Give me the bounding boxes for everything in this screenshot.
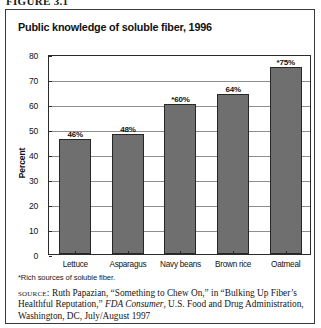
x-tick-mark <box>180 251 181 255</box>
plot-area: 0102030405060708046%Lettuce48%Asparagus*… <box>48 55 311 255</box>
source-label: source: <box>18 287 50 298</box>
y-tick-label: 80 <box>0 51 38 61</box>
y-tick-label: 20 <box>0 201 38 211</box>
x-axis-label: Oatmeal <box>271 260 300 269</box>
x-axis-label: Brown rice <box>215 260 251 269</box>
figure-label: FIGURE 3.1 <box>6 0 68 7</box>
source-note: source: Ruth Papazian, “Something to Che… <box>18 287 306 322</box>
source-publication: FDA Consumer <box>105 299 163 309</box>
bar-value-label: 48% <box>120 125 135 134</box>
y-tick-label: 40 <box>0 151 38 161</box>
x-tick-mark <box>128 251 129 255</box>
bar-value-label: *75% <box>277 58 295 67</box>
bar[interactable] <box>270 67 302 255</box>
bar[interactable] <box>112 134 144 254</box>
bar-group: 48%Asparagus <box>102 56 155 254</box>
y-tick-label: 30 <box>0 176 38 186</box>
bar-group: *75%Oatmeal <box>259 56 312 254</box>
bar-group: *60%Navy beans <box>154 56 207 254</box>
footnote: *Rich sources of soluble fiber. <box>18 273 115 282</box>
bar[interactable] <box>59 139 91 254</box>
x-tick-mark <box>75 251 76 255</box>
y-tick-label: 50 <box>0 126 38 136</box>
bar-value-label: *60% <box>171 95 189 104</box>
y-tick-label: 0 <box>0 251 38 261</box>
figure-box: Public knowledge of soluble fiber, 1996 … <box>5 9 315 324</box>
bar-value-label: 46% <box>68 130 83 139</box>
y-tick-label: 10 <box>0 226 38 236</box>
bar-group: 64%Brown rice <box>207 56 260 254</box>
x-tick-mark <box>286 251 287 255</box>
bar-chart: Percent 0102030405060708046%Lettuce48%As… <box>6 10 316 270</box>
bar[interactable] <box>217 94 249 254</box>
bar[interactable] <box>164 104 196 254</box>
y-tick-label: 60 <box>0 101 38 111</box>
y-axis-title: Percent <box>17 128 27 198</box>
bar-value-label: 64% <box>225 85 240 94</box>
x-axis-label: Asparagus <box>109 260 146 269</box>
x-axis-label: Navy beans <box>160 260 201 269</box>
bar-group: 46%Lettuce <box>49 56 102 254</box>
y-tick-mark <box>49 256 52 257</box>
x-axis-label: Lettuce <box>63 260 88 269</box>
y-tick-label: 70 <box>0 76 38 86</box>
x-tick-mark <box>233 251 234 255</box>
